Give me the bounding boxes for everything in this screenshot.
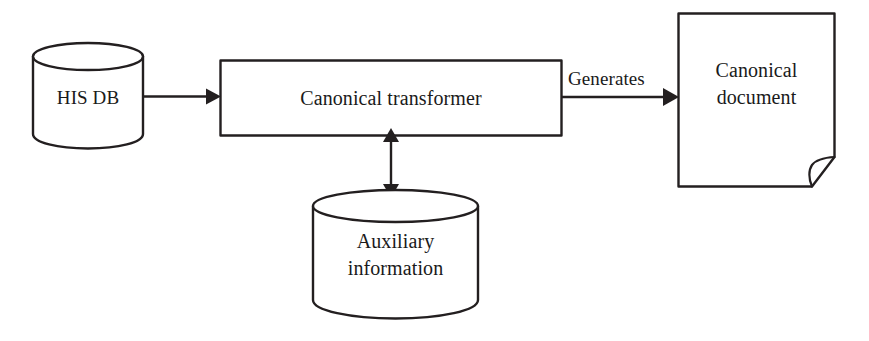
document-label-line-1: Canonical [678,57,835,84]
edge-transformer-to-auxiliary [383,128,399,198]
auxiliary-label-line-1: Auxiliary [313,228,478,255]
generates-edge-label: Generates [568,66,672,91]
document-label: Canonical document [678,57,835,111]
auxiliary-label: Auxiliary information [313,228,478,282]
db-to-transformer-arrowhead [206,89,221,105]
edge-db-to-transformer [143,89,221,105]
document-label-line-2: document [678,84,835,111]
his-db-label: HIS DB [33,85,143,110]
transformer-label: Canonical transformer [220,85,562,112]
diagram-canvas: HIS DB Canonical transformer Generates C… [0,0,869,341]
auxiliary-cylinder-top [313,190,478,222]
auxiliary-label-line-2: information [313,255,478,282]
diagram-graphics [0,0,869,341]
his-db-cylinder-top [33,43,143,70]
